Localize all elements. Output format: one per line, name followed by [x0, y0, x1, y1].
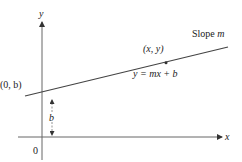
point-xy-label: (x, y) — [143, 43, 164, 55]
graph-line — [25, 47, 228, 96]
intercept-label: (0, b) — [0, 79, 22, 91]
origin-label: 0 — [33, 145, 38, 156]
point-xy — [165, 61, 168, 64]
y-axis-label: y — [38, 8, 44, 19]
x-axis-label: x — [224, 131, 230, 142]
b-distance-label: b — [49, 112, 54, 123]
slope-intercept-diagram: y x 0 Slope m (x, y) y = mx + b (0, b) b — [0, 0, 242, 162]
slope-label-prefix: Slope — [192, 28, 217, 39]
equation-label: y = mx + b — [132, 68, 178, 79]
slope-symbol: m — [217, 28, 224, 39]
slope-label: Slope m — [192, 28, 225, 39]
